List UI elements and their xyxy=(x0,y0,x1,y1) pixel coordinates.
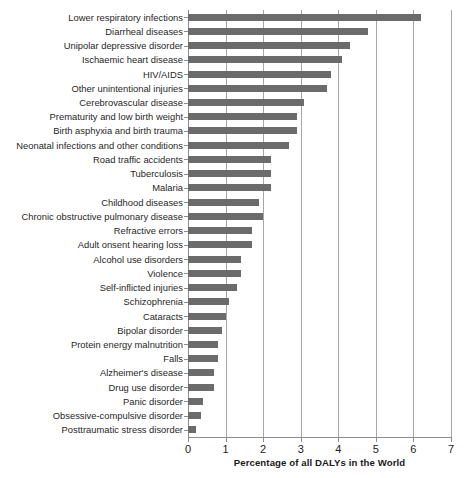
chart-row: Road traffic accidents xyxy=(0,152,467,166)
category-label: Cataracts xyxy=(3,311,183,322)
chart-row: Alzheimer's disease xyxy=(0,366,467,380)
chart-row: Alcohol use disorders xyxy=(0,252,467,266)
bar xyxy=(188,42,350,49)
category-label: Adult onsent hearing loss xyxy=(3,239,183,250)
dalys-bar-chart: Percentage of all DALYs in the World 012… xyxy=(0,0,467,478)
bar xyxy=(188,127,297,134)
bar xyxy=(188,170,271,177)
x-tick-label-4: 4 xyxy=(323,443,353,456)
chart-row: Cataracts xyxy=(0,309,467,323)
chart-row: Schizophrenia xyxy=(0,295,467,309)
chart-row: Diarrheal diseases xyxy=(0,24,467,38)
chart-row: Tuberculosis xyxy=(0,167,467,181)
x-tick-label-3: 3 xyxy=(286,443,316,456)
bar xyxy=(188,213,263,220)
x-tick-label-2: 2 xyxy=(248,443,278,456)
category-label: Alzheimer's disease xyxy=(3,367,183,378)
bar xyxy=(188,156,271,163)
category-label: Obsessive-compulsive disorder xyxy=(3,410,183,421)
category-label: Alcohol use disorders xyxy=(3,254,183,265)
category-label: Childhood diseases xyxy=(3,197,183,208)
chart-row: Prematurity and low birth weight xyxy=(0,110,467,124)
category-label: Drug use disorder xyxy=(3,382,183,393)
x-tick-mark-2 xyxy=(263,437,264,442)
category-label: Tuberculosis xyxy=(3,168,183,179)
category-label: Posttraumatic stress disorder xyxy=(3,424,183,435)
category-label: HIV/AIDS xyxy=(3,69,183,80)
bar xyxy=(188,369,214,376)
bar xyxy=(188,398,203,405)
bar xyxy=(188,227,252,234)
chart-row: HIV/AIDS xyxy=(0,67,467,81)
chart-row: Neonatal infections and other conditions xyxy=(0,138,467,152)
chart-row: Bipolar disorder xyxy=(0,323,467,337)
bar xyxy=(188,184,271,191)
category-label: Birth asphyxia and birth trauma xyxy=(3,125,183,136)
category-label: Self-inflicted injuries xyxy=(3,282,183,293)
chart-row: Panic disorder xyxy=(0,394,467,408)
chart-row: Unipolar depressive disorder xyxy=(0,38,467,52)
category-label: Prematurity and low birth weight xyxy=(3,111,183,122)
bar xyxy=(188,56,342,63)
category-label: Other unintentional injuries xyxy=(3,83,183,94)
chart-row: Falls xyxy=(0,352,467,366)
chart-row: Birth asphyxia and birth trauma xyxy=(0,124,467,138)
bar xyxy=(188,412,201,419)
chart-row: Lower respiratory infections xyxy=(0,10,467,24)
category-label: Cerebrovascular disease xyxy=(3,97,183,108)
x-tick-mark-3 xyxy=(301,437,302,442)
category-label: Road traffic accidents xyxy=(3,154,183,165)
x-tick-label-0: 0 xyxy=(173,443,203,456)
category-label: Bipolar disorder xyxy=(3,325,183,336)
chart-row: Protein energy malnutrition xyxy=(0,337,467,351)
chart-row: Cerebrovascular disease xyxy=(0,95,467,109)
chart-row: Obsessive-compulsive disorder xyxy=(0,409,467,423)
bar xyxy=(188,313,226,320)
x-tick-label-6: 6 xyxy=(398,443,428,456)
chart-row: Self-inflicted injuries xyxy=(0,280,467,294)
category-label: Panic disorder xyxy=(3,396,183,407)
category-label: Lower respiratory infections xyxy=(3,12,183,23)
x-axis-line xyxy=(188,437,451,438)
bar xyxy=(188,85,327,92)
category-label: Refractive errors xyxy=(3,225,183,236)
bar xyxy=(188,327,222,334)
x-tick-mark-4 xyxy=(338,437,339,442)
chart-row: Chronic obstructive pulmonary disease xyxy=(0,209,467,223)
bar xyxy=(188,241,252,248)
chart-row: Adult onsent hearing loss xyxy=(0,238,467,252)
x-tick-label-1: 1 xyxy=(211,443,241,456)
category-label: Diarrheal diseases xyxy=(3,26,183,37)
category-label: Protein energy malnutrition xyxy=(3,339,183,350)
x-tick-mark-1 xyxy=(226,437,227,442)
bar xyxy=(188,99,304,106)
chart-row: Violence xyxy=(0,266,467,280)
bar xyxy=(188,284,237,291)
bar xyxy=(188,341,218,348)
bar xyxy=(188,199,259,206)
bar xyxy=(188,426,196,433)
chart-row: Childhood diseases xyxy=(0,195,467,209)
category-label: Malaria xyxy=(3,182,183,193)
category-label: Schizophrenia xyxy=(3,296,183,307)
bar xyxy=(188,113,297,120)
bar xyxy=(188,256,241,263)
category-label: Violence xyxy=(3,268,183,279)
bar xyxy=(188,384,214,391)
category-label: Chronic obstructive pulmonary disease xyxy=(3,211,183,222)
bar xyxy=(188,14,421,21)
category-label: Ischaemic heart disease xyxy=(3,54,183,65)
bar xyxy=(188,298,229,305)
chart-row: Drug use disorder xyxy=(0,380,467,394)
chart-row: Refractive errors xyxy=(0,224,467,238)
bar xyxy=(188,270,241,277)
x-tick-mark-0 xyxy=(188,437,189,442)
x-tick-label-5: 5 xyxy=(361,443,391,456)
category-label: Unipolar depressive disorder xyxy=(3,40,183,51)
chart-row: Other unintentional injuries xyxy=(0,81,467,95)
category-label: Neonatal infections and other conditions xyxy=(3,140,183,151)
x-axis-title: Percentage of all DALYs in the World xyxy=(188,457,451,468)
chart-row: Malaria xyxy=(0,181,467,195)
bar xyxy=(188,28,368,35)
x-tick-label-7: 7 xyxy=(436,443,466,456)
